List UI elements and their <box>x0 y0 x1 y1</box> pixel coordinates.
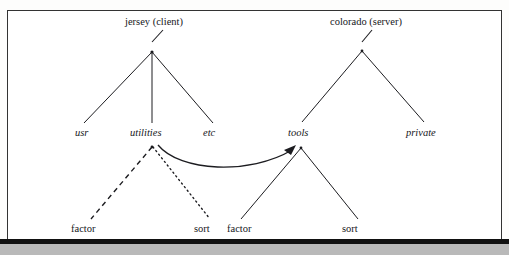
node-label-jersey: jersey (client) <box>125 17 183 28</box>
node-label-server-sort: sort <box>342 224 358 235</box>
node-label-utilities: utilities <box>130 128 162 139</box>
edge-tools-sort <box>301 148 358 219</box>
page-edge-strip <box>0 244 509 255</box>
node-label-server-factor: factor <box>227 224 251 235</box>
edge-colorado-tools <box>302 51 362 122</box>
node-label-colorado: colorado (server) <box>330 17 402 28</box>
node-label-client-sort: sort <box>194 224 210 235</box>
edge-colorado-private <box>362 51 424 122</box>
edge-utilities-sort-dotted <box>153 147 210 219</box>
node-label-usr: usr <box>75 128 88 139</box>
edge-jersey-usr <box>84 52 152 123</box>
root-tick-jersey <box>152 30 163 42</box>
node-label-etc: etc <box>203 128 215 139</box>
edge-utilities-factor-dashed <box>91 147 152 219</box>
mount-arrow-curve <box>158 145 292 167</box>
edge-tools-factor <box>241 148 301 219</box>
root-tick-colorado <box>362 30 372 42</box>
node-label-private: private <box>406 128 436 139</box>
node-label-client-factor: factor <box>71 224 95 235</box>
edge-jersey-etc <box>152 52 213 123</box>
node-label-tools: tools <box>288 128 308 139</box>
figure-page: jersey (client) usr utilities etc factor… <box>0 0 509 255</box>
